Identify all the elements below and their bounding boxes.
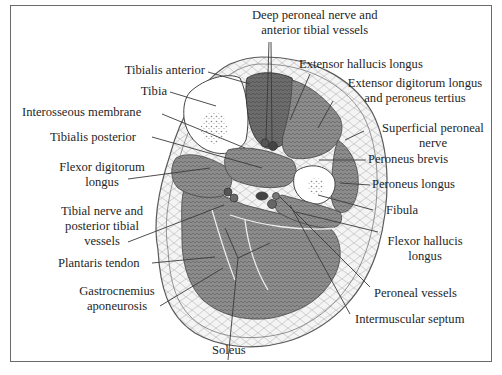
label-tibialis-anterior: Tibialis anterior [85,63,205,78]
label-line: longus [380,249,470,264]
label-peroneus-longus: Peroneus longus [372,177,455,192]
label-soleus: Soleus [212,343,246,358]
label-intermuscular-septum: Intermuscular septum [355,312,464,327]
label-line: nerve [368,136,498,151]
label-interosseous-membrane: Interosseous membrane [22,105,141,120]
label-line: and peroneus tertius [330,91,500,106]
label-extensor-hallucis-longus: Extensor hallucis longus [299,57,423,72]
label-peroneal-vessels: Peroneal vessels [374,286,457,301]
label-line: Flexor hallucis [380,234,470,249]
label-line: posterior tibial [52,219,152,234]
label-flexor-digitorum-longus: Flexor digitorum longus [48,160,156,190]
label-line: vessels [52,234,152,249]
label-deep-peroneal-nerve: Deep peroneal nerve and anterior tibial … [252,8,378,38]
label-line: Flexor digitorum [48,160,156,175]
label-line: Deep peroneal nerve and [252,8,378,23]
label-tibial-nerve-posterior-tibial-vessels: Tibial nerve and posterior tibial vessel… [52,204,152,249]
label-peroneus-brevis: Peroneus brevis [368,152,448,167]
label-line: Gastrocnemius [72,284,162,299]
label-fibula: Fibula [386,203,418,218]
label-line: anterior tibial vessels [252,23,378,38]
label-line: longus [48,175,156,190]
label-line: Extensor digitorum longus [330,76,500,91]
label-plantaris-tendon: Plantaris tendon [58,256,140,271]
fibula-marrow [308,178,324,194]
label-line: Superficial peroneal [368,121,498,136]
label-tibialis-posterior: Tibialis posterior [50,130,136,145]
label-tibia: Tibia [120,84,167,99]
label-gastrocnemius-aponeurosis: Gastrocnemius aponeurosis [72,284,162,314]
label-line: Tibial nerve and [52,204,152,219]
label-flexor-hallucis-longus: Flexor hallucis longus [380,234,470,264]
label-superficial-peroneal-nerve: Superficial peroneal nerve [368,121,498,151]
label-line: aponeurosis [72,299,162,314]
label-extensor-digitorum-longus: Extensor digitorum longus and peroneus t… [330,76,500,106]
